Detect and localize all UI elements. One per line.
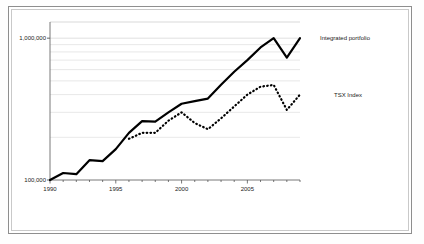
gridlines [50, 38, 300, 137]
chart-figure: 1,000,000 100,000 1990199520002005 Integ… [0, 0, 424, 244]
y-tick-label-100000: 100,000 [24, 177, 46, 183]
x-axis-tick-labels: 1990199520002005 [43, 186, 254, 192]
x-tick-label-2005: 2005 [241, 186, 255, 192]
data-series [50, 38, 300, 180]
series-labels: Integrated portfolio TSX Index [320, 35, 371, 97]
y-tick-label-1000000: 1,000,000 [19, 35, 46, 41]
x-tick-label-1990: 1990 [43, 186, 57, 192]
series-integrated-portfolio [50, 38, 300, 180]
y-axis-tick-labels: 1,000,000 100,000 [19, 35, 46, 183]
x-tick-label-1995: 1995 [109, 186, 123, 192]
x-tick-label-2000: 2000 [175, 186, 189, 192]
series-label-integrated-portfolio: Integrated portfolio [320, 35, 371, 41]
series-label-tsx-index: TSX Index [334, 92, 362, 98]
line-chart: 1,000,000 100,000 1990199520002005 Integ… [0, 0, 424, 244]
x-axis-ticks [50, 180, 300, 184]
